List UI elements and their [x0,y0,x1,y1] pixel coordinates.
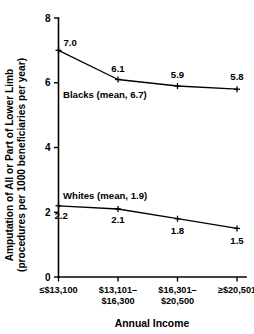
y-tick-label: 0 [45,272,51,283]
data-point-label: 7.0 [64,37,77,48]
series-whites: 2.22.11.81.5 [55,203,245,247]
y-tick-label: 2 [45,207,51,218]
series-blacks: 7.06.15.95.8 [56,37,245,92]
chart-figure: Amputation of All or Part of Lower Limb … [0,0,254,334]
series-layer: 7.06.15.95.82.22.11.81.5 [55,37,245,246]
y-tick-label: 4 [45,142,51,153]
x-tick-label-second-line: $20,500 [161,296,194,306]
data-point-label: 1.8 [171,225,185,236]
y-axis-title-group: Amputation of All or Part of Lower Limb … [4,58,27,272]
series-line-blacks [59,50,238,89]
axes [59,18,247,277]
data-point-label: 5.9 [171,69,184,80]
data-point-label: 2.2 [55,210,68,221]
x-tick-label: ≥$20,501 [218,285,254,295]
x-tick-label: ≤$13,100 [39,285,77,295]
series-annotation-blacks: Blacks (mean, 6.7) [63,89,147,100]
x-tick-label-second-line: $16,300 [101,296,134,306]
data-point-label: 6.1 [111,63,125,74]
x-axis-title: Annual Income [115,318,190,329]
series-annotation-whites: Whites (mean, 1.9) [63,190,147,201]
y-axis-title-line2: (procedures per 1000 beneficiaries per y… [16,58,27,272]
y-tick-label: 8 [45,13,51,24]
y-tick-group: 02468 [45,13,59,283]
y-tick-label: 6 [45,77,51,88]
y-axis-title-line1: Amputation of All or Part of Lower Limb [4,69,15,262]
data-point-label: 5.8 [230,71,244,82]
data-point-label: 1.5 [230,235,244,246]
x-tick-label-group: ≤$13,100$13,101–$16,300$16,301–$20,500≥$… [39,285,254,307]
series-line-whites [59,206,238,229]
x-tick-label: $13,101– [99,285,137,295]
x-tick-label: $16,301– [158,285,196,295]
amputation-by-income-line-chart: Amputation of All or Part of Lower Limb … [0,0,254,334]
data-point-label: 2.1 [111,214,125,225]
